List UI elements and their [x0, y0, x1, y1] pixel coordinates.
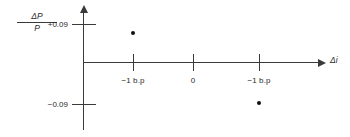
- x-tick-mark-1: [133, 54, 134, 71]
- data-point-upper: [131, 31, 135, 35]
- x-tick-label-1: −1 b.p: [121, 76, 144, 85]
- data-point-lower: [257, 101, 261, 105]
- x-tick-label-2: 0: [191, 76, 196, 85]
- x-axis-arrow-icon: [318, 59, 326, 67]
- x-tick-mark-3: [259, 54, 260, 71]
- x-tick-mark-2: [193, 54, 194, 71]
- y-axis-line: [83, 10, 84, 130]
- y-tick-label-negative: −0.09: [48, 100, 68, 109]
- x-axis-label: Δi: [330, 55, 338, 65]
- chart-figure: ΔP P Δi +0.09 −0.09 −1 b.p 0 −1 b.p: [0, 0, 350, 137]
- y-tick-mark-negative: [72, 104, 96, 105]
- x-tick-label-3: −1 b.p: [247, 76, 270, 85]
- y-tick-label-positive: +0.09: [48, 20, 68, 29]
- x-axis-line: [83, 62, 319, 63]
- y-tick-mark-positive: [72, 24, 96, 25]
- y-axis-arrow-icon: [80, 5, 88, 13]
